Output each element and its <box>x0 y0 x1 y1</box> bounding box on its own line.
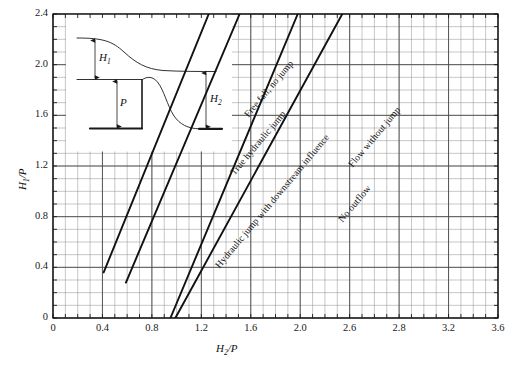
y-axis-title-tail: /P <box>16 169 28 179</box>
y-tick-label: 2.4 <box>20 7 48 18</box>
inset-h1-label: H1 <box>99 51 111 66</box>
inset-h2-label: H2 <box>210 92 222 107</box>
y-axis-title: H1/P <box>16 169 31 190</box>
y-tick-label: 0 <box>20 311 48 322</box>
y-axis-title-sub: 1 <box>22 178 31 182</box>
inset-panel-background <box>66 15 232 152</box>
x-tick-label: 1.6 <box>241 322 261 333</box>
chart-figure: 00.40.81.21.62.02.62.83.23.6 00.40.81.21… <box>0 0 520 366</box>
x-tick-label: 0 <box>43 322 63 333</box>
x-axis-title: H2/P <box>216 342 237 357</box>
y-tick-label: 1.6 <box>20 108 48 119</box>
inset-h2-sub: 2 <box>218 98 222 107</box>
x-tick-label: 0.8 <box>142 322 162 333</box>
x-tick-label: 2.0 <box>290 322 310 333</box>
x-tick-label: 2.6 <box>340 322 360 333</box>
inset-p-label: P <box>120 96 127 108</box>
x-tick-label: 0.4 <box>92 322 112 333</box>
y-tick-label: 0.4 <box>20 260 48 271</box>
y-tick-label: 0.8 <box>20 210 48 221</box>
inset-h1-sub: 1 <box>107 57 111 66</box>
inset-p-base: P <box>120 96 127 108</box>
inset-h2-base: H <box>210 92 218 104</box>
x-tick-label: 2.8 <box>389 322 409 333</box>
y-tick-label: 2.0 <box>20 58 48 69</box>
inset-h1-base: H <box>99 51 107 63</box>
x-tick-label: 1.2 <box>191 322 211 333</box>
x-tick-label: 3.2 <box>439 322 459 333</box>
x-tick-label: 3.6 <box>488 322 508 333</box>
x-axis-title-tail: /P <box>228 342 238 354</box>
x-axis-title-base: H <box>216 342 224 354</box>
y-axis-title-base: H <box>16 182 28 190</box>
chart-plot-area <box>0 0 520 366</box>
